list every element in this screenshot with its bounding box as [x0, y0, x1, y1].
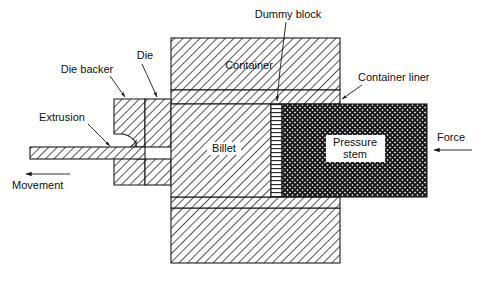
die-backer-group — [114, 99, 145, 185]
extrusion-bar-group — [30, 147, 145, 159]
label-force: Force — [437, 131, 465, 143]
die-leader — [142, 64, 157, 97]
container-bottom-block — [171, 208, 340, 263]
label-extrusion: Extrusion — [39, 111, 85, 123]
extrusion-bar-rect — [30, 147, 145, 159]
label-movement: Movement — [12, 179, 63, 191]
die-backer-upper — [114, 99, 145, 147]
label-container: Container — [225, 59, 273, 71]
label-die: Die — [137, 49, 154, 61]
label-dummy-block: Dummy block — [255, 8, 322, 20]
container-liner-top-rect — [171, 90, 340, 104]
die-backer-leader — [110, 76, 125, 97]
container-liner-top — [171, 90, 340, 104]
container-bottom-rect — [171, 208, 340, 263]
dummy-block-group — [271, 104, 282, 197]
die-group — [145, 99, 171, 185]
label-pressure-stem-line1: Pressure — [333, 136, 377, 148]
die-upper — [145, 99, 171, 147]
container-liner-leader — [342, 85, 362, 99]
die-lower — [145, 159, 171, 185]
label-pressure-stem-line2: stem — [343, 148, 367, 160]
label-die-backer: Die backer — [61, 63, 114, 75]
label-container-liner: Container liner — [358, 71, 430, 83]
diagram-canvas: Dummy block Container Container liner Di… — [0, 0, 478, 281]
container-liner-bottom — [171, 197, 340, 208]
container-liner-bottom-rect — [171, 197, 340, 208]
extrusion-diagram: Dummy block Container Container liner Di… — [0, 0, 478, 281]
label-billet: Billet — [212, 142, 236, 154]
extrusion-leader — [88, 124, 110, 146]
dummy-block-rect — [271, 104, 282, 197]
